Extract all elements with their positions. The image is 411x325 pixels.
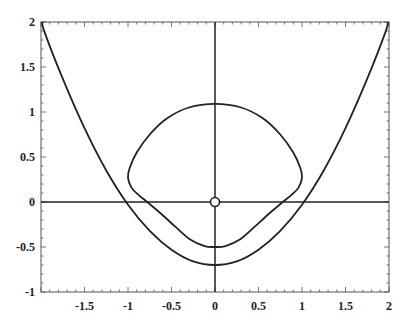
tick-labels: -1.5-1-0.500.511.52-1-0.500.511.52 — [16, 15, 392, 313]
x-tick-label: -0.5 — [162, 299, 181, 313]
y-tick-label: -1 — [25, 285, 35, 299]
chart: -1.5-1-0.500.511.52-1-0.500.511.52 — [0, 0, 411, 325]
y-tick-label: 0.5 — [20, 150, 35, 164]
x-tick-label: 1 — [299, 299, 305, 313]
annotations — [211, 198, 220, 207]
x-tick-label: 0.5 — [251, 299, 266, 313]
x-tick-label: -1 — [123, 299, 133, 313]
y-tick-label: 2 — [29, 15, 35, 29]
x-tick-label: 0 — [212, 299, 218, 313]
y-tick-label: 1 — [29, 105, 35, 119]
x-tick-label: 2 — [386, 299, 392, 313]
y-tick-label: 1.5 — [20, 60, 35, 74]
origin-marker-icon — [211, 198, 220, 207]
x-tick-label: -1.5 — [75, 299, 94, 313]
y-tick-label: -0.5 — [16, 240, 35, 254]
x-tick-label: 1.5 — [338, 299, 353, 313]
y-tick-label: 0 — [29, 195, 35, 209]
axis-lines — [41, 22, 389, 292]
